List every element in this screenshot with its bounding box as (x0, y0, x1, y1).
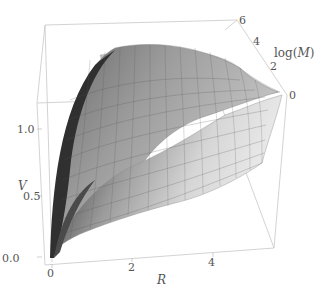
y-tick-1: 2 (270, 60, 277, 73)
z-axis-label: V (18, 179, 28, 193)
x-tick-2: 4 (208, 256, 215, 269)
z-tick-0: 0.0 (2, 252, 20, 265)
surface-mesh (50, 44, 282, 258)
surface-plot: 0.0 0.5 1.0 V 0 2 4 R 0 2 4 6 log(M) (0, 0, 329, 298)
y-tick-2: 4 (253, 35, 260, 48)
x-axis-label: R (156, 273, 166, 287)
y-tick-0: 0 (289, 89, 296, 102)
x-tick-0: 0 (47, 267, 54, 280)
y-tick-3: 6 (239, 14, 246, 27)
z-tick-2: 1.0 (17, 123, 35, 136)
y-axis-label: log(M) (274, 46, 314, 60)
z-axis: 0.0 0.5 1.0 V (2, 123, 42, 265)
x-tick-1: 2 (128, 261, 135, 274)
x-axis: 0 2 4 R (47, 253, 215, 287)
